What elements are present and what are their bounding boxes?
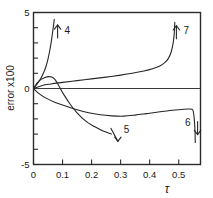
y-tick-label-2: -5 <box>21 159 29 170</box>
y-tick-label-0: 5 <box>24 7 29 18</box>
x-tick-label-3: 0.3 <box>114 169 127 180</box>
arrow-head-5 <box>115 137 121 141</box>
x-tick-label-4: 0.4 <box>143 169 156 180</box>
error-vs-tau-line-chart: 00.10.20.30.40.5 50-5 4567 error x100 τ <box>0 0 213 198</box>
x-axis-label: τ <box>165 182 171 196</box>
y-axis-tick-labels: 50-5 <box>21 7 29 170</box>
y-tick-label-1: 0 <box>24 83 29 94</box>
data-curves <box>34 19 201 142</box>
curve-label-5: 5 <box>124 124 130 135</box>
x-tick-label-5: 0.5 <box>172 169 185 180</box>
curve-annotations: 4567 <box>54 25 200 142</box>
chart-figure: 00.10.20.30.40.5 50-5 4567 error x100 τ <box>0 0 213 198</box>
x-tick-label-0: 0 <box>31 169 36 180</box>
x-axis-tick-labels: 00.10.20.30.40.5 <box>31 169 185 180</box>
curve-label-4: 4 <box>65 25 71 36</box>
x-tick-label-2: 0.2 <box>85 169 98 180</box>
x-tick-label-1: 0.1 <box>56 169 69 180</box>
y-axis-label: error x100 <box>5 65 16 111</box>
curve-label-7: 7 <box>183 25 189 36</box>
curve-label-6: 6 <box>185 117 191 128</box>
